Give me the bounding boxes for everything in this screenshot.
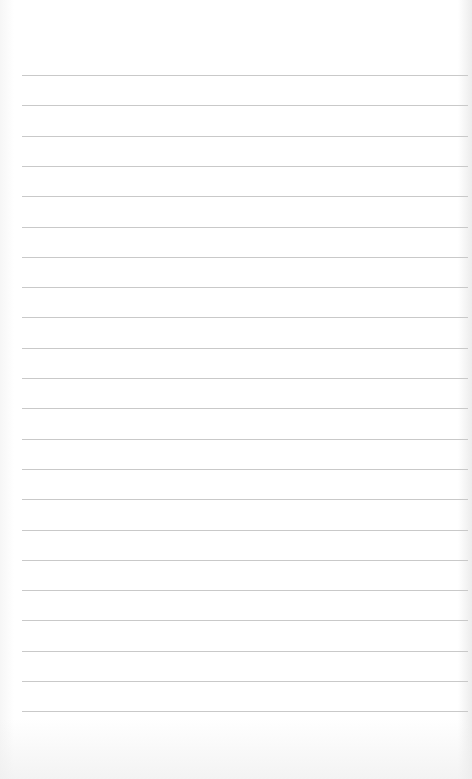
ruled-line [22,439,468,440]
ruled-line [22,378,468,379]
ruled-line [22,287,468,288]
ruled-line [22,348,468,349]
ruled-line [22,620,468,621]
ruled-line [22,317,468,318]
ruled-line [22,711,468,712]
lined-paper-page [0,0,472,779]
ruled-line [22,681,468,682]
ruled-line [22,560,468,561]
ruled-line [22,196,468,197]
ruled-line [22,166,468,167]
ruled-line [22,227,468,228]
ruled-line [22,530,468,531]
bleed-through-marks [70,0,200,6]
ruled-line [22,590,468,591]
ruled-line [22,75,468,76]
ruled-line [22,408,468,409]
ruled-line [22,136,468,137]
ruled-line [22,105,468,106]
ruled-line [22,257,468,258]
ruled-line [22,651,468,652]
ruled-line [22,499,468,500]
ruled-line [22,469,468,470]
